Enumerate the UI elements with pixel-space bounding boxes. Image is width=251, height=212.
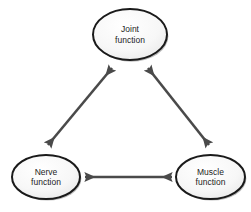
node-shape-joint[interactable] (93, 9, 167, 60)
node-shape-group (12, 9, 245, 199)
diagram-graphics-layer (0, 0, 251, 212)
connector-nerve-joint (48, 68, 112, 145)
connector-group (48, 68, 209, 177)
node-shape-nerve[interactable] (12, 155, 80, 199)
node-shape-muscle[interactable] (176, 155, 245, 199)
diagram-canvas: Joint function Nerve function Muscle fun… (0, 0, 251, 212)
connector-joint-muscle (148, 68, 209, 145)
